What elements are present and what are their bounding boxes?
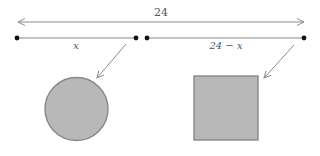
right-segment-label: 24 − x — [208, 40, 242, 51]
right-segment-end-dot — [302, 36, 307, 41]
wire-cut-diagram: 24 x 24 − x — [0, 0, 320, 156]
total-length-label: 24 — [154, 6, 168, 19]
arrow-to-square-icon — [264, 45, 294, 78]
right-segment-start-dot — [145, 36, 150, 41]
arrow-to-circle-icon — [97, 44, 126, 78]
left-segment-start-dot — [15, 36, 20, 41]
total-length-dimension: 24 — [18, 6, 304, 22]
square-shape — [194, 76, 258, 140]
circle-shape — [45, 78, 108, 141]
left-segment-end-dot — [134, 36, 139, 41]
left-segment-label: x — [73, 40, 79, 51]
left-segment: x — [15, 36, 139, 51]
right-segment: 24 − x — [145, 36, 307, 51]
